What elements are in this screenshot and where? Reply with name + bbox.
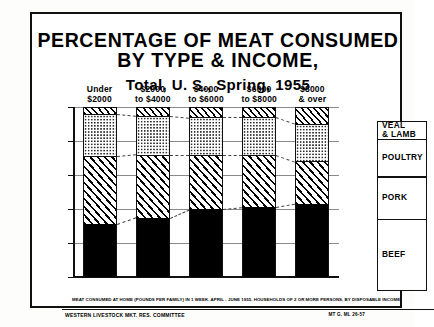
bar-segment-pork (189, 155, 223, 209)
legend-item-beef: BEEF (382, 250, 405, 260)
bar-segment-pork (242, 155, 276, 208)
page-subtitle: Total, U. S., Spring, 1955 (32, 74, 404, 96)
page-title-line1: PERCENTAGE OF MEAT CONSUMED (32, 30, 404, 50)
legend-item-pork: PORK (382, 193, 407, 203)
footnote-text: MEAT CONSUMED AT HOME (POUNDS PER FAMILY… (72, 297, 402, 303)
chart-legend: VEAL& LAMBPOULTRYPORKBEEF (377, 121, 427, 291)
title-block: PERCENTAGE OF MEAT CONSUMED BY TYPE & IN… (32, 30, 404, 96)
bar-column (295, 107, 329, 277)
code-text: MT G. ML 26-57 (329, 312, 365, 317)
chart-plot-area: 0 %20 %40 %60 %80 %100 % (73, 107, 339, 277)
bar-segment-pork (136, 155, 170, 218)
bar-segment-veal-lamb (136, 107, 170, 116)
connector-line-poultry (223, 117, 242, 118)
connector-line-pork (223, 155, 242, 156)
connector-line-poultry (170, 116, 189, 119)
legend-label-line1: PORK (382, 193, 407, 203)
legend-label-line2: & LAMB (382, 130, 416, 140)
connector-line-pork (276, 155, 296, 163)
bar-segment-poultry (189, 117, 223, 154)
credit-text: WESTERN LIVESTOCK MKT. RES. COMMITTEE (65, 312, 185, 318)
bar-segment-veal-lamb (83, 107, 117, 114)
page-title-line2: BY TYPE & INCOME, (32, 50, 404, 71)
connector-line-pork (117, 155, 136, 158)
bar-segment-veal-lamb (189, 107, 223, 117)
bar-segment-veal-lamb (295, 107, 329, 124)
bar-segment-poultry (242, 117, 276, 154)
connector-line-beef (276, 204, 295, 208)
bar-column (136, 107, 170, 277)
connector-line-poultry (276, 117, 296, 125)
connector-line-pork (170, 155, 189, 156)
bar-segment-beef (83, 224, 117, 277)
bar-column (83, 107, 117, 277)
legend-item-veal: VEAL& LAMB (382, 121, 416, 140)
connector-line-beef (117, 217, 137, 225)
legend-label-line1: POULTRY (382, 153, 423, 163)
legend-item-poultry: POULTRY (382, 153, 423, 163)
bar-column (189, 107, 223, 277)
bar-segment-pork (83, 156, 117, 224)
bar-segment-pork (295, 161, 329, 204)
bar-segment-veal-lamb (242, 107, 276, 117)
bar-column (242, 107, 276, 277)
legend-divider (378, 219, 426, 220)
bar-segment-poultry (136, 116, 170, 155)
legend-label-line1: BEEF (382, 250, 405, 260)
connector-line-beef (170, 209, 190, 218)
y-axis-line (73, 107, 75, 277)
bar-segment-beef (136, 218, 170, 278)
bar-segment-poultry (295, 124, 329, 161)
connector-line-poultry (117, 114, 136, 117)
footer-divider (62, 309, 434, 310)
bar-segment-beef (242, 207, 276, 277)
legend-divider (378, 176, 426, 177)
bar-segment-beef (189, 209, 223, 277)
bar-segment-poultry (83, 114, 117, 157)
bar-segment-beef (295, 204, 329, 277)
